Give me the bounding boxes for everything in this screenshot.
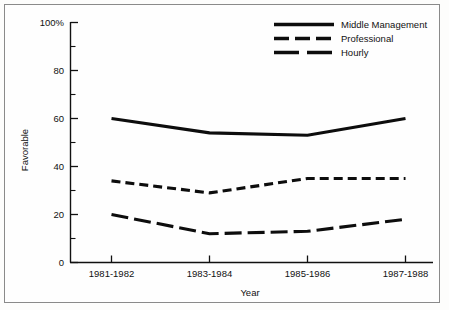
- x-tick-label-1987-1988: 1987-1988: [383, 268, 428, 279]
- series-line-hourly: [112, 215, 406, 234]
- y-tick-label-100: 100%: [40, 17, 65, 28]
- x-tick-label-1983-1984: 1983-1984: [187, 268, 232, 279]
- series-line-middle-management: [112, 119, 406, 136]
- legend-label-middle-management: Middle Management: [341, 19, 427, 30]
- chart-legend: Middle Management Professional Hourly: [274, 19, 427, 58]
- x-tick-label-1981-1982: 1981-1982: [89, 268, 134, 279]
- x-axis-ticks: [112, 256, 406, 263]
- series-line-professional: [112, 179, 406, 193]
- y-tick-label-20: 20: [53, 209, 64, 220]
- y-tick-label-60: 60: [53, 113, 64, 124]
- y-axis-title: Favorable: [19, 129, 30, 171]
- line-chart: 100% 80 60 40 20 0 Favorable 1981-1982 1…: [0, 0, 449, 310]
- series-group: [112, 119, 406, 234]
- y-axis-minor-ticks: [71, 47, 76, 239]
- chart-page: 100% 80 60 40 20 0 Favorable 1981-1982 1…: [0, 0, 449, 310]
- legend-label-professional: Professional: [341, 33, 393, 44]
- y-tick-label-80: 80: [53, 65, 64, 76]
- y-tick-label-0: 0: [59, 257, 64, 268]
- legend-label-hourly: Hourly: [341, 47, 369, 58]
- y-tick-label-40: 40: [53, 161, 64, 172]
- x-axis-title: Year: [240, 287, 259, 298]
- x-tick-label-1985-1986: 1985-1986: [285, 268, 330, 279]
